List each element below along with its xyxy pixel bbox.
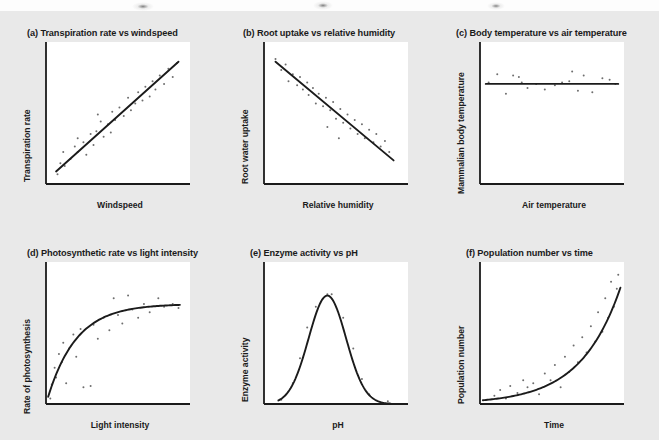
data-point xyxy=(75,356,77,358)
panel-d: (d) Photosynthetic rate vs light intensi… xyxy=(0,242,220,440)
data-point xyxy=(59,162,61,164)
data-point xyxy=(93,144,95,146)
data-point xyxy=(123,115,125,117)
data-point xyxy=(100,120,102,122)
smudge-center xyxy=(313,1,333,10)
data-point xyxy=(152,80,154,82)
data-point xyxy=(326,126,328,128)
data-point xyxy=(538,393,540,395)
panel-c-ylabel: Mammalian body temperature xyxy=(456,72,466,194)
panel-f-title: (f) Population number vs time xyxy=(466,248,593,259)
data-point xyxy=(159,75,161,77)
data-point xyxy=(322,105,324,107)
data-point xyxy=(85,154,87,156)
data-point xyxy=(571,70,573,72)
panel-d-title: (d) Photosynthetic rate vs light intensi… xyxy=(27,248,198,259)
panel-f-ylabel: Population number xyxy=(456,326,466,404)
data-point xyxy=(154,88,156,90)
panel-c-xlabel: Air temperature xyxy=(480,200,628,210)
data-point xyxy=(90,133,92,135)
data-point xyxy=(568,80,570,82)
data-point xyxy=(127,97,129,99)
data-point xyxy=(496,73,498,75)
chart-d-svg xyxy=(30,262,190,420)
data-point xyxy=(318,93,320,95)
data-point xyxy=(554,364,556,366)
data-point xyxy=(577,90,579,92)
data-point xyxy=(108,329,110,331)
data-point xyxy=(97,114,99,116)
data-point xyxy=(499,389,501,391)
data-point xyxy=(77,137,79,139)
panel-f-xlabel: Time xyxy=(480,420,628,430)
data-point xyxy=(368,129,370,131)
data-point xyxy=(522,379,524,381)
data-point xyxy=(388,151,390,153)
data-point xyxy=(332,101,334,103)
data-point xyxy=(296,84,298,86)
data-point xyxy=(544,88,546,90)
data-point xyxy=(82,141,84,143)
panel-a-plot xyxy=(30,42,190,200)
data-point xyxy=(82,386,84,388)
panel-e-ylabel: Enzyme activity xyxy=(240,338,250,402)
data-point xyxy=(121,322,123,324)
data-point xyxy=(518,76,520,78)
data-point xyxy=(54,367,56,369)
panel-e: (e) Enzyme activity vs pH pH Enzyme acti… xyxy=(218,242,438,440)
data-point xyxy=(315,306,317,308)
data-point xyxy=(560,386,562,388)
data-point xyxy=(172,76,174,78)
panel-e-plot xyxy=(248,262,408,420)
panel-c-title: (c) Body temperature vs air temperature xyxy=(456,28,627,39)
data-point xyxy=(527,87,529,89)
data-point xyxy=(285,63,287,65)
data-point xyxy=(581,336,583,338)
data-point xyxy=(110,132,112,134)
panel-f-plot xyxy=(464,262,624,420)
data-point xyxy=(550,379,552,381)
data-point xyxy=(143,303,145,305)
panel-a-xlabel: Windspeed xyxy=(46,200,194,210)
plot-area-background xyxy=(46,262,190,404)
data-point xyxy=(130,109,132,111)
data-point xyxy=(616,288,618,290)
data-point xyxy=(329,109,331,111)
data-point xyxy=(306,82,308,84)
data-point xyxy=(609,79,611,81)
data-point xyxy=(177,307,179,309)
data-point xyxy=(58,353,60,355)
data-point xyxy=(384,140,386,142)
data-point xyxy=(72,334,74,336)
data-point xyxy=(387,400,389,402)
data-point xyxy=(299,76,301,78)
chart-e-svg xyxy=(248,262,408,420)
panel-b: (b) Root uptake vs relative humidity Rel… xyxy=(218,22,438,220)
data-point xyxy=(308,94,310,96)
data-point xyxy=(149,95,151,97)
smudge-right xyxy=(487,2,505,10)
panel-a-title: (a) Transpiration rate vs windspeed xyxy=(27,28,178,39)
data-point xyxy=(134,102,136,104)
data-point xyxy=(583,75,585,77)
panel-c-plot xyxy=(464,42,624,200)
data-point xyxy=(573,345,575,347)
data-point xyxy=(564,356,566,358)
data-point xyxy=(302,88,304,90)
panel-a-ylabel: Transpiration rate xyxy=(22,109,32,182)
panel-f: (f) Population number vs time Time Popul… xyxy=(434,242,659,440)
panel-d-ylabel: Rate of photosynthesis xyxy=(22,319,32,414)
data-point xyxy=(335,118,337,120)
plot-area-background xyxy=(480,42,624,184)
data-point xyxy=(375,133,377,135)
panel-c: (c) Body temperature vs air temperature … xyxy=(434,22,659,220)
panel-e-title: (e) Enzyme activity vs pH xyxy=(250,248,358,259)
data-point xyxy=(342,122,344,124)
data-point xyxy=(532,382,534,384)
data-point xyxy=(127,295,129,297)
chart-c-svg xyxy=(464,42,624,200)
panel-b-ylabel: Root water uptake xyxy=(240,110,250,185)
panel-b-xlabel: Relative humidity xyxy=(264,200,412,210)
chart-a-svg xyxy=(30,42,190,200)
data-point xyxy=(118,107,120,109)
